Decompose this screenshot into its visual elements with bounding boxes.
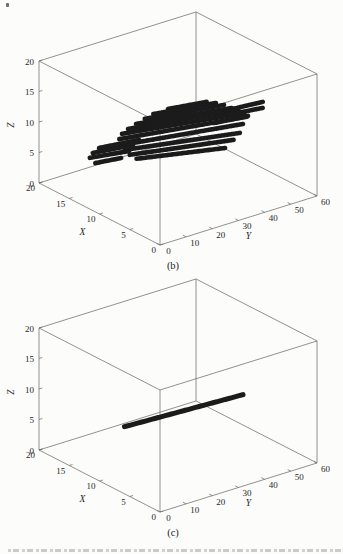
x-tick-label: 10 xyxy=(87,214,97,224)
y-axis-label: Y xyxy=(246,231,253,241)
x-axis-label: X xyxy=(79,494,87,504)
scan-artifact xyxy=(6,3,9,7)
y-tick-label: 30 xyxy=(243,488,253,498)
point-row xyxy=(95,158,121,163)
figure-canvas: 05101520010203040506005101520XYZ05101520… xyxy=(0,0,343,554)
z-axis-label: Z xyxy=(6,122,16,128)
y-tick-label: 30 xyxy=(243,221,253,231)
z-tick-label: 20 xyxy=(25,324,35,334)
z-tick-label: 0 xyxy=(30,446,35,456)
y-tick-label: 0 xyxy=(166,513,171,523)
z-tick-label: 5 xyxy=(30,415,35,425)
y-tick-label: 10 xyxy=(190,238,200,248)
point-rows xyxy=(124,395,243,427)
y-tick-label: 50 xyxy=(295,472,305,482)
y-tick-label: 20 xyxy=(216,497,226,507)
z-tick-label: 15 xyxy=(25,87,35,97)
figure: 05101520010203040506005101520XYZ05101520… xyxy=(0,0,343,554)
y-axis-label: Y xyxy=(246,498,253,508)
point-rows xyxy=(90,102,263,163)
y-tick-label: 20 xyxy=(216,230,226,240)
z-tick-label: 0 xyxy=(30,179,35,189)
z-tick-label: 20 xyxy=(25,57,35,67)
subplot-caption-c: (c) xyxy=(153,527,193,538)
x-tick-label: 10 xyxy=(87,481,97,491)
z-tick-label: 15 xyxy=(25,354,35,364)
x-tick-label: 5 xyxy=(121,497,126,507)
z-axis-label: Z xyxy=(6,389,16,395)
axis-ticks: 05101520010203040506005101520 xyxy=(25,57,331,257)
x-tick-label: 15 xyxy=(56,466,66,476)
plot-b: 05101520010203040506005101520XYZ xyxy=(6,12,331,256)
z-tick-label: 10 xyxy=(25,118,35,128)
axis-ticks: 05101520010203040506005101520 xyxy=(25,324,331,524)
x-tick-label: 15 xyxy=(56,199,66,209)
plot-c: 05101520010203040506005101520XYZ xyxy=(6,279,331,523)
x-tick-label: 0 xyxy=(152,512,157,522)
box-edges xyxy=(39,279,317,512)
x-tick-label: 5 xyxy=(121,230,126,240)
y-tick-label: 40 xyxy=(269,213,279,223)
subplot-caption-b: (b) xyxy=(153,260,193,271)
x-axis-label: X xyxy=(79,227,87,237)
y-tick-label: 10 xyxy=(190,505,200,515)
y-tick-label: 60 xyxy=(321,464,331,474)
y-tick-label: 40 xyxy=(269,480,279,490)
z-tick-label: 5 xyxy=(30,148,35,158)
z-tick-label: 10 xyxy=(25,385,35,395)
y-tick-label: 0 xyxy=(166,246,171,256)
cropped-caption-top xyxy=(8,549,343,552)
x-tick-label: 0 xyxy=(152,245,157,255)
y-tick-label: 60 xyxy=(321,197,331,207)
point-row xyxy=(124,395,243,427)
y-tick-label: 50 xyxy=(295,205,305,215)
